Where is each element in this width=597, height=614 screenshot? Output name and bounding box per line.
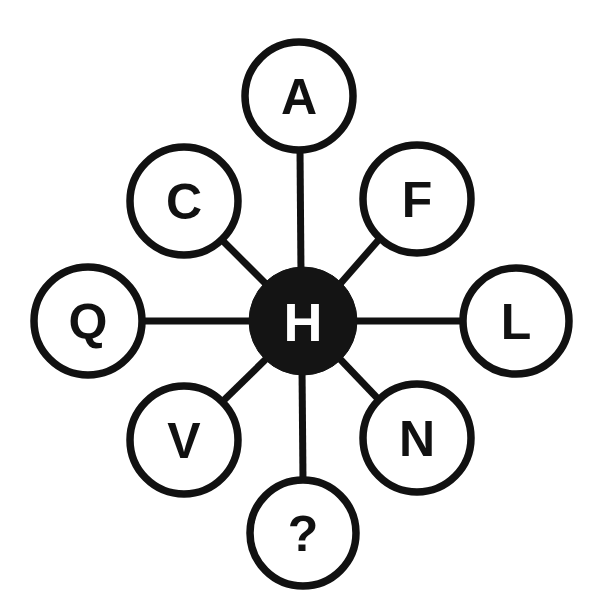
edge-hub-question: [302, 368, 303, 481]
node-q-label: Q: [69, 294, 108, 350]
node-q[interactable]: Q: [34, 267, 142, 375]
edge-hub-n: [340, 359, 382, 403]
node-question-label: ?: [288, 506, 319, 562]
node-n[interactable]: N: [363, 384, 471, 492]
edge-hub-a: [300, 150, 301, 275]
node-v-label: V: [167, 413, 201, 469]
node-c[interactable]: C: [130, 147, 238, 255]
node-v[interactable]: V: [130, 386, 238, 494]
node-l[interactable]: L: [463, 268, 569, 374]
node-a[interactable]: A: [245, 42, 353, 150]
nodes-group: AFLN?VQCH: [34, 42, 569, 586]
node-a-label: A: [281, 69, 317, 125]
edge-hub-f: [340, 236, 382, 284]
edge-hub-v: [220, 359, 266, 404]
node-f[interactable]: F: [363, 145, 471, 253]
edge-hub-c: [221, 239, 266, 284]
hub-and-spoke-diagram: AFLN?VQCH: [0, 0, 597, 614]
node-l-label: L: [501, 294, 532, 350]
hub-label: H: [284, 292, 323, 352]
node-c-label: C: [166, 174, 202, 230]
node-n-label: N: [399, 411, 435, 467]
node-question[interactable]: ?: [250, 480, 356, 586]
hub[interactable]: H: [249, 267, 357, 375]
diagram-canvas: AFLN?VQCH: [0, 0, 597, 614]
node-f-label: F: [402, 172, 433, 228]
